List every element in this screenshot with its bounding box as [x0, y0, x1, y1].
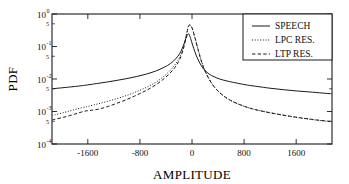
svg-text:10: 10	[37, 10, 47, 20]
x-tick-label: 1600	[287, 148, 306, 158]
svg-text:0: 0	[47, 8, 50, 14]
x-axis-title: AMPLITUDE	[153, 167, 231, 182]
legend-label: LPC RES.	[275, 35, 315, 45]
chart-canvas: 10010-110-210-310-45555 -1600-8000800160…	[0, 0, 349, 184]
y-tick-label-minor: 5	[46, 21, 49, 27]
legend-label: LTP RES.	[275, 49, 313, 59]
svg-text:10: 10	[37, 140, 47, 150]
svg-text:-1: -1	[47, 40, 52, 46]
svg-text:-3: -3	[47, 105, 52, 111]
svg-text:-4: -4	[47, 138, 52, 144]
svg-text:10: 10	[37, 107, 47, 117]
pdf-amplitude-chart: 10010-110-210-310-45555 -1600-8000800160…	[0, 0, 349, 184]
y-tick-label-minor: 5	[46, 54, 49, 60]
svg-text:10: 10	[37, 75, 47, 85]
x-tick-label: 0	[190, 148, 195, 158]
x-tick-label: -800	[132, 148, 149, 158]
x-tick-label: -1600	[77, 148, 98, 158]
y-tick-label-minor: 5	[46, 119, 49, 125]
y-tick-label-minor: 5	[46, 86, 49, 92]
svg-text:-2: -2	[47, 73, 52, 79]
x-tick-label: 800	[237, 148, 251, 158]
legend-label: SPEECH	[275, 21, 311, 31]
chart-legend: SPEECHLPC RES.LTP RES.	[243, 14, 332, 60]
y-axis-title: PDF	[5, 67, 20, 92]
svg-text:10: 10	[37, 42, 47, 52]
